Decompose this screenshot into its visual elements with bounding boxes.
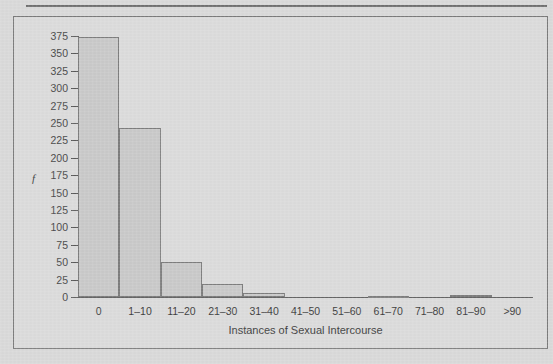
- x-tick-label: 71–80: [409, 305, 450, 317]
- y-tick-label: 275: [24, 101, 68, 111]
- y-tick-label-text: 250: [28, 118, 68, 128]
- x-tick-label: >90: [492, 305, 533, 317]
- figure-page: f 02550751001251501752002252502753003253…: [0, 0, 553, 364]
- y-tick-label-text: 325: [28, 66, 68, 76]
- histogram-bar: [78, 37, 119, 297]
- y-tick-label: 200: [24, 153, 68, 163]
- y-tick-label: 350: [24, 48, 68, 58]
- y-tick-label-text: 0: [28, 292, 68, 302]
- y-tick-label-text: 200: [28, 153, 68, 163]
- y-tick-label: 75: [24, 240, 68, 250]
- y-tick-mark: [71, 175, 78, 176]
- histogram-bar: [119, 128, 160, 297]
- y-tick-label: 250: [24, 118, 68, 128]
- y-tick-mark: [71, 245, 78, 246]
- y-tick-label: 50: [24, 257, 68, 267]
- y-tick-mark: [71, 262, 78, 263]
- y-tick-mark: [71, 53, 78, 54]
- x-tick-label: 51–60: [326, 305, 367, 317]
- y-tick-label-text: 75: [28, 240, 68, 250]
- y-tick-label: 100: [24, 222, 68, 232]
- y-tick-label-text: 50: [28, 257, 68, 267]
- x-tick-label: 0: [78, 305, 119, 317]
- histogram-bar: [161, 262, 202, 297]
- y-tick-mark: [71, 280, 78, 281]
- x-axis-title: Instances of Sexual Intercourse: [78, 324, 533, 336]
- y-tick-mark: [71, 140, 78, 141]
- histogram-bar: [450, 295, 491, 297]
- y-tick-mark: [71, 297, 78, 298]
- y-tick-label: 25: [24, 275, 68, 285]
- y-tick-label: 225: [24, 135, 68, 145]
- top-rule-divider: [26, 5, 547, 7]
- y-tick-label: 175: [24, 170, 68, 180]
- y-tick-label: 150: [24, 188, 68, 198]
- y-tick-label-text: 100: [28, 222, 68, 232]
- x-tick-label: 21–30: [202, 305, 243, 317]
- y-tick-label-text: 275: [28, 101, 68, 111]
- y-tick-label: 0: [24, 292, 68, 302]
- histogram-bar: [202, 284, 243, 297]
- y-tick-mark: [71, 158, 78, 159]
- x-tick-label: 11–20: [161, 305, 202, 317]
- x-axis-line: [78, 297, 533, 298]
- figure-frame: f 02550751001251501752002252502753003253…: [13, 16, 548, 349]
- x-tick-label: 61–70: [368, 305, 409, 317]
- y-tick-label-text: 375: [28, 31, 68, 41]
- x-tick-label: 1–10: [119, 305, 160, 317]
- x-tick-label: 31–40: [243, 305, 284, 317]
- histogram-plot: f 02550751001251501752002252502753003253…: [14, 17, 549, 350]
- x-tick-label: 41–50: [285, 305, 326, 317]
- y-tick-mark: [71, 123, 78, 124]
- y-tick-label: 375: [24, 31, 68, 41]
- y-tick-mark: [71, 88, 78, 89]
- y-tick-mark: [71, 71, 78, 72]
- y-tick-label-text: 225: [28, 135, 68, 145]
- histogram-bar: [243, 293, 284, 297]
- histogram-bar: [368, 296, 409, 298]
- y-tick-mark: [71, 227, 78, 228]
- y-tick-mark: [71, 106, 78, 107]
- y-tick-label-text: 150: [28, 188, 68, 198]
- y-tick-label-text: 125: [28, 205, 68, 215]
- y-tick-label: 125: [24, 205, 68, 215]
- y-tick-mark: [71, 210, 78, 211]
- y-tick-label-text: 175: [28, 170, 68, 180]
- x-tick-label: 81–90: [450, 305, 491, 317]
- y-tick-label: 300: [24, 83, 68, 93]
- y-tick-label: 325: [24, 66, 68, 76]
- y-tick-label-text: 300: [28, 83, 68, 93]
- y-tick-mark: [71, 193, 78, 194]
- y-tick-label-text: 25: [28, 275, 68, 285]
- y-tick-mark: [71, 36, 78, 37]
- y-tick-label-text: 350: [28, 48, 68, 58]
